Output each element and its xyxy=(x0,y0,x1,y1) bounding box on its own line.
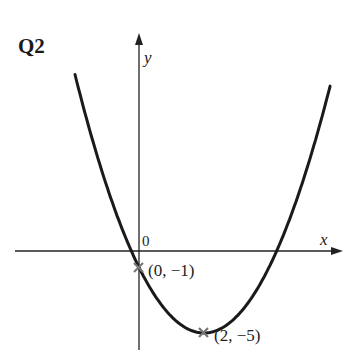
x-axis-label: x xyxy=(319,230,328,249)
y-axis-label: y xyxy=(142,48,152,67)
point-label-vertex: (2, −5) xyxy=(214,326,260,345)
origin-label: 0 xyxy=(142,233,150,249)
y-axis-arrow-icon xyxy=(135,33,143,45)
parabola-curve xyxy=(75,75,330,334)
parabola-graph: y x 0 (0, −1) (2, −5) xyxy=(0,0,354,358)
point-label-y-intercept: (0, −1) xyxy=(148,261,194,280)
x-axis-arrow-icon xyxy=(331,247,343,255)
